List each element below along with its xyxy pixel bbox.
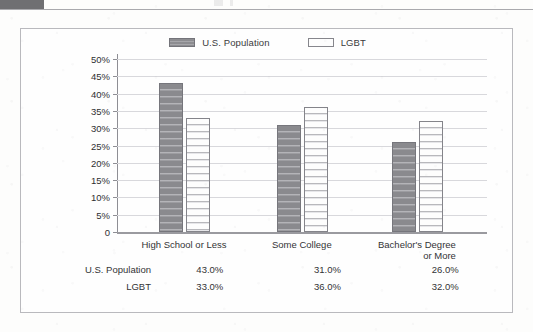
header-divider-rule xyxy=(0,9,533,10)
y-tick-label: 30% xyxy=(91,123,110,134)
bar-us-population xyxy=(392,142,416,232)
page-header-strip xyxy=(0,0,533,11)
y-tick-label: 25% xyxy=(91,140,110,151)
y-tick-label: 10% xyxy=(91,192,110,203)
plot-area: 50%45%40%35%30%25%20%15%10%5%0 High Scho… xyxy=(117,59,487,232)
header-dark-block xyxy=(0,0,44,9)
table-cell-value: 31.0% xyxy=(269,261,387,278)
category-label: Bachelor's Degreeor More xyxy=(378,239,456,261)
y-tick-mark xyxy=(113,197,117,198)
y-tick-mark xyxy=(113,111,117,112)
table-cell-value: 33.0% xyxy=(151,278,269,295)
y-tick-label: 35% xyxy=(91,105,110,116)
y-tick-label: 0 xyxy=(105,227,110,238)
category-label: Some College xyxy=(272,239,332,250)
y-tick-mark xyxy=(113,215,117,216)
legend-item-lgbt: LGBT xyxy=(308,37,366,48)
table-row: LGBT33.0%36.0%32.0% xyxy=(31,278,504,295)
chart-legend: U.S. Population LGBT xyxy=(21,37,514,48)
y-tick-mark xyxy=(113,180,117,181)
gridline xyxy=(117,76,487,77)
legend-label-us-population: U.S. Population xyxy=(202,37,270,48)
bar-lgbt xyxy=(419,121,443,232)
figure-panel: U.S. Population LGBT 50%45%40%35%30%25%2… xyxy=(20,28,513,313)
y-tick-mark xyxy=(113,146,117,147)
bar-lgbt xyxy=(304,107,328,232)
bar-group xyxy=(159,83,210,232)
table-cell-value: 26.0% xyxy=(386,261,504,278)
y-tick-mark xyxy=(113,232,117,233)
gridline xyxy=(117,59,487,60)
legend-swatch-icon-lgbt xyxy=(308,38,334,47)
table-cell-value: 36.0% xyxy=(269,278,387,295)
y-tick-mark xyxy=(113,94,117,95)
legend-swatch-icon-us-population xyxy=(169,38,195,47)
y-tick-label: 45% xyxy=(91,71,110,82)
y-tick-label: 40% xyxy=(91,88,110,99)
y-tick-label: 5% xyxy=(96,209,110,220)
header-ghost-text xyxy=(214,0,254,6)
y-axis-line xyxy=(117,54,118,232)
bar-us-population xyxy=(159,83,183,232)
y-tick-label: 50% xyxy=(91,54,110,65)
table-cell-value: 43.0% xyxy=(151,261,269,278)
bar-group xyxy=(277,107,328,232)
y-tick-mark xyxy=(113,59,117,60)
x-axis-line xyxy=(117,232,487,234)
y-tick-label: 20% xyxy=(91,157,110,168)
bar-us-population xyxy=(277,125,301,232)
scanned-chart-page: U.S. Population LGBT 50%45%40%35%30%25%2… xyxy=(0,0,533,332)
y-tick-mark xyxy=(113,128,117,129)
category-label: High School or Less xyxy=(142,239,227,250)
y-tick-mark xyxy=(113,76,117,77)
legend-item-us-population: U.S. Population xyxy=(169,37,270,48)
y-tick-mark xyxy=(113,163,117,164)
y-tick-label: 15% xyxy=(91,175,110,186)
table-row: U.S. Population43.0%31.0%26.0% xyxy=(31,261,504,278)
table-cell-value: 32.0% xyxy=(386,278,504,295)
table-row-label: U.S. Population xyxy=(31,261,151,278)
bar-group xyxy=(392,121,443,232)
legend-label-lgbt: LGBT xyxy=(341,37,366,48)
data-table: U.S. Population43.0%31.0%26.0%LGBT33.0%3… xyxy=(31,261,504,295)
table-row-label: LGBT xyxy=(31,278,151,295)
bar-lgbt xyxy=(186,118,210,232)
